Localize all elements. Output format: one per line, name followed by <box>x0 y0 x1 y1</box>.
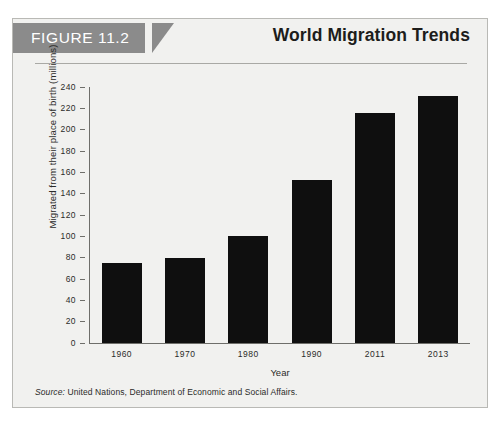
bar-slot <box>217 87 280 343</box>
bar <box>102 263 142 343</box>
y-axis-tick-label: 80 <box>66 253 76 262</box>
y-axis-tick-label: 0 <box>71 338 76 347</box>
y-axis-tick-label: 200 <box>61 125 76 134</box>
bar-slot <box>343 87 406 343</box>
x-axis-tick-label: 1960 <box>90 349 153 359</box>
bar <box>228 236 268 343</box>
bar <box>355 113 395 343</box>
y-axis-tick-mark <box>80 215 85 216</box>
y-axis-tick-label: 60 <box>66 274 76 283</box>
y-axis-tick-mark <box>80 151 85 152</box>
x-axis-tick-labels: 196019701980199020112013 <box>90 349 470 359</box>
y-axis-tick-mark <box>80 129 85 130</box>
bar-slot <box>280 87 343 343</box>
y-axis-tick-mark <box>80 236 85 237</box>
y-axis-tick-label: 20 <box>66 317 76 326</box>
y-axis-tick-label: 160 <box>61 168 76 177</box>
x-axis-tick-label: 1980 <box>217 349 280 359</box>
figure-card: FIGURE 11.2 World Migration Trends Migra… <box>12 18 488 408</box>
source-note: Source: United Nations, Department of Ec… <box>35 387 298 397</box>
source-label: Source: <box>35 387 65 397</box>
bar-slot <box>153 87 216 343</box>
y-axis-tick-mark <box>80 321 85 322</box>
y-axis-tick-label: 100 <box>61 232 76 241</box>
y-axis-tick-mark <box>80 279 85 280</box>
y-axis-tick-mark <box>80 172 85 173</box>
y-axis-tick-label: 180 <box>61 146 76 155</box>
y-axis-tick-mark <box>80 193 85 194</box>
y-axis-tick-label: 140 <box>61 189 76 198</box>
y-axis-tick-mark <box>80 343 85 344</box>
bar <box>292 180 332 343</box>
x-axis-line <box>89 343 470 344</box>
y-axis-tick-mark <box>80 108 85 109</box>
y-axis-tick-label: 120 <box>61 210 76 219</box>
x-axis-tick-label: 2013 <box>407 349 470 359</box>
x-axis-title: Year <box>90 367 470 378</box>
x-axis-tick-label: 1970 <box>153 349 216 359</box>
y-axis-tick-mark <box>80 257 85 258</box>
source-text: United Nations, Department of Economic a… <box>65 387 298 397</box>
x-axis-tick-label: 2011 <box>343 349 406 359</box>
y-axis-tick-label: 40 <box>66 296 76 305</box>
bar-series <box>90 87 470 343</box>
y-axis-tick-mark <box>80 300 85 301</box>
bar <box>418 96 458 343</box>
bar-slot <box>407 87 470 343</box>
bar-chart: Migrated from their place of birth (mill… <box>13 19 489 409</box>
y-axis-tick-label: 220 <box>61 104 76 113</box>
y-axis-tick-mark <box>80 87 85 88</box>
y-axis-tick-label: 240 <box>61 82 76 91</box>
x-axis-tick-label: 1990 <box>280 349 343 359</box>
bar-slot <box>90 87 153 343</box>
y-axis-ticks: 240220200180160140120100806040200 <box>39 83 85 343</box>
bar <box>165 258 205 343</box>
